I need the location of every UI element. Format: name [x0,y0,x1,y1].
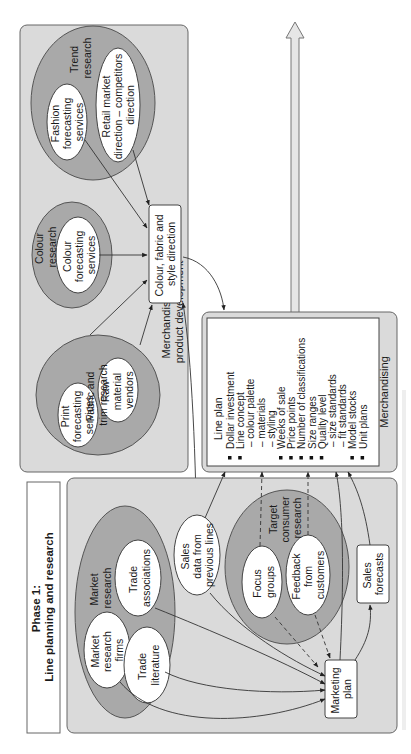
line-planning-diagram: Merchandising and product development Fa… [0,0,411,754]
bullet-icon [289,456,293,460]
bullet-icon [350,456,354,460]
target-consumer-research-group: Target consumer research Focus groups Fe… [225,490,349,644]
bullet-icon [238,456,242,460]
product-development-panel: Merchandising and product development Fa… [20,25,188,472]
line-plan-item: Unit plans [358,405,369,449]
colour-fabric-style-direction-box: Colour, fabric and style direction [149,205,181,303]
svg-text:Colour research: Colour research [33,226,58,267]
sales-forecasts-box: Sales forecasts [357,545,389,603]
svg-text:Colour, fabric and sty: Colour, fabric and style direction [153,211,177,296]
merchandising-label: Merchandising [378,356,390,428]
market-research-group: Market research Market research firms Tr… [75,506,175,718]
sales-data-node: Sales data from previous lines [174,515,220,595]
market-panel: Market research Market research firms Tr… [67,472,397,733]
svg-text:Market research: Market research [88,567,113,608]
bullet-icon [279,456,283,460]
phase-title-box: Phase 1: Line planning and research [27,482,60,733]
bullet-icon [320,456,324,460]
marketing-plan-box: Marketing plan [325,660,357,718]
svg-text:Trend research: Trend research [68,37,93,78]
bullet-icon [299,456,303,460]
fashion-forecasting-node: Fashion forecasting services [49,95,85,149]
bullet-icon [361,456,365,460]
merchandising-panel: Merchandising Line planDollar investment… [202,312,397,472]
line-plan-heading: Line plan [212,397,224,440]
trade-literature-node: Trade literature [136,644,161,685]
bullet-icon [310,456,314,460]
focus-groups-node: Focus groups [251,566,276,598]
flow-arrow-icon [286,22,304,312]
bullet-icon [228,456,232,460]
citation-text [402,390,406,730]
fabric-trim-research-group: Fabric and trim research Print forecasti… [36,335,160,455]
trend-research-group: Trend research Fashion forecasting servi… [31,26,155,180]
